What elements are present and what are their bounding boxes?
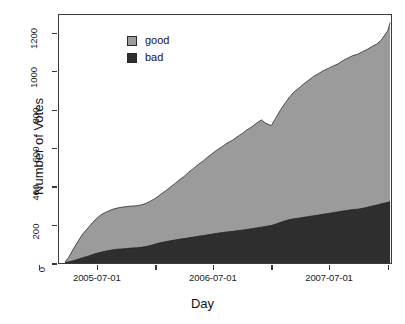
x-tick-mark	[155, 265, 156, 270]
x-tick-label: 2007-07-01	[305, 272, 353, 283]
chart-legend: good bad	[127, 33, 169, 67]
y-tick-mark	[52, 110, 57, 111]
x-tick-mark	[97, 265, 98, 270]
y-tick-label: 600	[0, 144, 48, 154]
legend-swatch-good	[127, 36, 137, 46]
legend-item-bad: bad	[127, 50, 169, 65]
y-tick-label: 200	[0, 221, 48, 231]
y-tick-mark	[52, 263, 57, 264]
y-tick-mark	[52, 33, 57, 34]
stacked-area-plot	[59, 15, 391, 263]
x-tick-mark	[329, 265, 330, 270]
y-tick-mark	[52, 71, 57, 72]
y-tick-mark	[52, 186, 57, 187]
x-axis-title: Day	[0, 296, 405, 311]
legend-label-bad: bad	[145, 52, 163, 63]
x-tick-label: 2006-07-01	[189, 272, 237, 283]
legend-item-good: good	[127, 33, 169, 48]
x-tick-mark	[388, 265, 389, 270]
x-tick-mark	[39, 265, 40, 270]
legend-label-good: good	[145, 35, 169, 46]
y-tick-label: 400	[0, 182, 48, 192]
x-tick-label: 2005-07-01	[73, 272, 121, 283]
x-tick-mark	[271, 265, 272, 270]
y-tick-mark	[52, 148, 57, 149]
x-tick-mark	[213, 265, 214, 270]
y-tick-mark	[52, 225, 57, 226]
y-tick-label: 1200	[0, 28, 48, 38]
y-tick-label: 1000	[0, 67, 48, 77]
legend-swatch-bad	[127, 53, 137, 63]
plot-area: good bad	[58, 14, 392, 264]
chart-figure: Number of Votes 020040060080010001200 20…	[0, 0, 405, 324]
y-tick-label: 800	[0, 105, 48, 115]
y-tick-label: 0	[0, 259, 48, 269]
